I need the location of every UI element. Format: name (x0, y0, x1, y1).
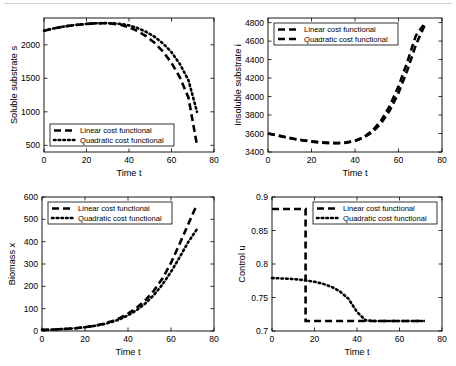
y-tick-label: 4400 (245, 55, 264, 65)
x-tick-label: 0 (40, 334, 45, 344)
x-tick-label: 20 (307, 155, 317, 165)
y-tick-label: 3600 (245, 129, 264, 139)
subplot-biomass: 0204060800100200300400500600Time tBiomas… (0, 183, 228, 366)
y-tick-label: 0.85 (251, 226, 268, 236)
plot-biomass: 0204060800100200300400500600Time tBiomas… (0, 183, 228, 366)
y-tick-label: 0 (33, 326, 38, 336)
y-tick-label: 4000 (245, 92, 264, 102)
y-tick-label: 4200 (245, 73, 264, 83)
x-tick-label: 60 (394, 155, 404, 165)
x-axis-title: Time t (115, 347, 141, 357)
y-tick-label: 0.7 (256, 326, 268, 336)
x-tick-label: 40 (350, 155, 360, 165)
y-axis-title: Biomass x (7, 242, 17, 285)
y-axis-title: Insoluble substrate i (233, 44, 243, 126)
legend-label: Quadratic cost functional (304, 35, 388, 44)
x-tick-label: 40 (123, 334, 133, 344)
x-tick-label: 40 (124, 155, 134, 165)
x-tick-label: 80 (209, 155, 219, 165)
y-axis-title: Control u (237, 245, 247, 282)
y-tick-label: 300 (24, 259, 39, 269)
legend-label: Linear cost functional (80, 126, 152, 135)
y-tick-label: 500 (24, 214, 39, 224)
legend-label: Quadratic cost functional (80, 136, 164, 145)
y-tick-label: 4800 (245, 18, 264, 28)
legend-label: Quadratic cost functional (78, 214, 162, 223)
x-tick-label: 0 (270, 334, 275, 344)
y-tick-label: 0.75 (251, 293, 268, 303)
x-tick-label: 60 (395, 334, 405, 344)
y-tick-label: 1500 (21, 73, 40, 83)
y-tick-label: 200 (24, 281, 39, 291)
y-tick-label: 0.9 (256, 192, 268, 202)
y-tick-label: 3800 (245, 110, 264, 120)
legend-label: Linear cost functional (304, 25, 376, 34)
x-axis-title: Time t (116, 168, 142, 178)
x-tick-label: 60 (167, 155, 177, 165)
y-tick-label: 500 (26, 140, 41, 150)
x-axis-title: Time t (344, 347, 370, 357)
x-tick-label: 0 (266, 155, 271, 165)
x-tick-label: 0 (42, 155, 47, 165)
y-tick-label: 4600 (245, 36, 264, 46)
figure-canvas: 020406080500100015002000Time tSoluble su… (0, 0, 456, 366)
y-tick-label: 100 (24, 304, 39, 314)
x-tick-label: 80 (437, 334, 447, 344)
subplot-soluble-substrate: 020406080500100015002000Time tSoluble su… (0, 0, 228, 183)
y-tick-label: 1000 (21, 107, 40, 117)
x-tick-label: 20 (310, 334, 320, 344)
series-line-quadratic (272, 278, 425, 321)
y-tick-label: 400 (24, 237, 39, 247)
x-tick-label: 60 (166, 334, 176, 344)
x-tick-label: 80 (209, 334, 219, 344)
x-tick-label: 80 (437, 155, 447, 165)
x-axis-title: Time t (342, 168, 368, 178)
legend-label: Linear cost functional (78, 204, 150, 213)
subplot-control: 0204060800.70.750.80.850.9Time tControl … (228, 183, 456, 366)
x-tick-label: 20 (82, 155, 92, 165)
plot-control: 0204060800.70.750.80.850.9Time tControl … (228, 183, 456, 366)
series-line-quadratic (42, 229, 197, 330)
plot-insoluble-substrate: 0204060803400360038004000420044004600480… (228, 0, 456, 183)
y-tick-label: 3400 (245, 147, 264, 157)
subplot-insoluble-substrate: 0204060803400360038004000420044004600480… (228, 0, 456, 183)
y-tick-label: 0.8 (256, 259, 268, 269)
legend-label: Linear cost functional (343, 204, 415, 213)
series-line-linear (272, 209, 425, 321)
y-axis-title: Soluble substrate s (9, 46, 19, 125)
x-tick-label: 40 (352, 334, 362, 344)
plot-soluble-substrate: 020406080500100015002000Time tSoluble su… (0, 0, 228, 183)
legend-label: Quadratic cost functional (343, 214, 427, 223)
y-tick-label: 2000 (21, 40, 40, 50)
y-tick-label: 600 (24, 192, 39, 202)
x-tick-label: 20 (80, 334, 90, 344)
